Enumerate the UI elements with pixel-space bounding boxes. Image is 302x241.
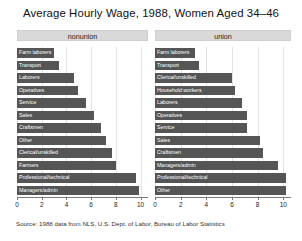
axis-tick	[232, 197, 233, 200]
bar-category-label: Sales	[19, 111, 32, 121]
bar-row[interactable]: Farm laborers	[17, 47, 148, 60]
bar-row[interactable]: Managers/admin	[155, 160, 291, 173]
bar-row[interactable]: Other	[17, 135, 148, 148]
bar-category-label: Sales	[157, 136, 170, 146]
bar-category-label: Laborers	[157, 98, 178, 108]
bar-category-label: Transport	[157, 61, 179, 71]
axis-tick-label: 0	[15, 201, 19, 208]
axis-tick	[283, 197, 284, 200]
axis-tick	[155, 197, 156, 200]
bar-row[interactable]: Farm laborers	[155, 47, 291, 60]
bar-row[interactable]: Sales	[155, 135, 291, 148]
axis-tick-label: 0	[153, 201, 157, 208]
bar-category-label: Clerical/unskilled	[19, 148, 58, 158]
bar-series-nonunion: Farm laborersTransportLaborersOperatives…	[17, 47, 148, 197]
bar-row[interactable]: Managers/admin	[17, 185, 148, 198]
bar[interactable]	[155, 136, 260, 146]
bar-row[interactable]: Craftsmen	[155, 147, 291, 160]
bar-category-label: Craftsmen	[19, 123, 43, 133]
bar-row[interactable]: Craftsmen	[17, 122, 148, 135]
bar-row[interactable]: Household workers	[155, 85, 291, 98]
bar-row[interactable]: Other	[155, 185, 291, 198]
axis-tick	[42, 197, 43, 200]
bar-category-label: Operatives	[19, 86, 44, 96]
axis-tick	[141, 197, 142, 200]
axis-tick	[206, 197, 207, 200]
bar-category-label: Managers/admin	[19, 186, 58, 196]
axis-tick	[181, 197, 182, 200]
axis-tick-label: 2	[40, 201, 44, 208]
bar-row[interactable]: Clerical/unskilled	[155, 72, 291, 85]
bar-row[interactable]: Farmers	[17, 160, 148, 173]
axis-tick	[91, 197, 92, 200]
axis-tick	[66, 197, 67, 200]
panel-union: union Farm laborersTransportClerical/uns…	[155, 30, 291, 213]
bar-category-label: Transport	[19, 61, 41, 71]
bar-row[interactable]: Clerical/unskilled	[17, 147, 148, 160]
bar-row[interactable]: Professional/technical	[155, 172, 291, 185]
bar-row[interactable]: Service	[17, 97, 148, 110]
bar-row[interactable]: Laborers	[17, 72, 148, 85]
bar-category-label: Household workers	[157, 86, 202, 96]
axis-tick-label: 8	[114, 201, 118, 208]
axis-tick-label: 4	[205, 201, 209, 208]
source-note: Source: 1988 data from NLS, U.S. Dept. o…	[16, 220, 225, 227]
bar-series-union: Farm laborersTransportClerical/unskilled…	[155, 47, 291, 197]
chart-figure: Average Hourly Wage, 1988, Women Aged 34…	[0, 0, 302, 241]
axis-tick-label: 4	[65, 201, 69, 208]
axis-tick-label: 6	[89, 201, 93, 208]
x-axis-union: 0246810	[155, 197, 291, 213]
panel-header-union: union	[155, 30, 291, 41]
bar-category-label: Clerical/unskilled	[157, 73, 196, 83]
bar-category-label: Farm laborers	[157, 48, 189, 58]
bar-category-label: Farm laborers	[19, 48, 51, 58]
bar[interactable]	[155, 186, 286, 196]
axis-tick-label: 10	[137, 201, 144, 208]
panel-nonunion: nonunion Farm laborersTransportLaborersO…	[17, 30, 148, 213]
bar-row[interactable]: Service	[155, 122, 291, 135]
axis-tick-label: 8	[256, 201, 260, 208]
bar-category-label: Laborers	[19, 73, 40, 83]
axis-line	[17, 197, 148, 198]
axis-tick-label: 10	[280, 201, 287, 208]
bar-row[interactable]: Professional/technical	[17, 172, 148, 185]
axis-tick-label: 2	[179, 201, 183, 208]
bar-row[interactable]: Operatives	[155, 110, 291, 123]
bar-category-label: Professional/technical	[19, 173, 69, 183]
bar-row[interactable]: Laborers	[155, 97, 291, 110]
plot-area-nonunion: Farm laborersTransportLaborersOperatives…	[17, 47, 148, 197]
bar-category-label: Professional/technical	[157, 173, 207, 183]
axis-tick	[258, 197, 259, 200]
bar-category-label: Managers/admin	[157, 161, 196, 171]
axis-tick	[116, 197, 117, 200]
axis-tick	[17, 197, 18, 200]
axis-line	[155, 197, 291, 198]
bar-category-label: Service	[157, 123, 174, 133]
bar-category-label: Farmers	[19, 161, 38, 171]
bar-row[interactable]: Transport	[17, 60, 148, 73]
bar-category-label: Other	[157, 186, 170, 196]
panel-header-nonunion: nonunion	[17, 30, 148, 41]
bar-row[interactable]: Sales	[17, 110, 148, 123]
bar-category-label: Craftsmen	[157, 148, 181, 158]
page-title: Average Hourly Wage, 1988, Women Aged 34…	[0, 7, 302, 19]
x-axis-nonunion: 0246810	[17, 197, 148, 213]
bar-category-label: Service	[19, 98, 36, 108]
bar-row[interactable]: Operatives	[17, 85, 148, 98]
axis-tick-label: 6	[230, 201, 234, 208]
bar-row[interactable]: Transport	[155, 60, 291, 73]
bar-category-label: Other	[19, 136, 32, 146]
plot-area-union: Farm laborersTransportClerical/unskilled…	[155, 47, 291, 197]
bar-category-label: Operatives	[157, 111, 182, 121]
